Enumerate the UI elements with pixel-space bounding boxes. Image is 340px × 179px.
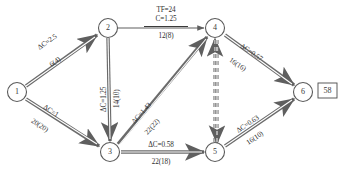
edge-2-4-total-float: TF=24 xyxy=(144,6,188,15)
node-2-label: 2 xyxy=(106,23,110,32)
edge-2-3-duration-value: 14(10) xyxy=(113,89,121,108)
edge-5-4-dashed xyxy=(215,40,217,142)
edge-2-3-label: ΔC=1.25 xyxy=(100,87,109,112)
node-6: 6 xyxy=(294,83,313,102)
edge-2-4-duration-value: 12(8) xyxy=(144,32,188,41)
edge-3-5-delta-c: ΔC=0.58 xyxy=(136,141,186,150)
edge-2-4-cost: C=1.25 xyxy=(144,15,188,24)
total-cost-box: 58 xyxy=(318,83,337,98)
edge-2-4-label-rule xyxy=(144,26,188,27)
node-1: 1 xyxy=(8,83,27,102)
node-3: 3 xyxy=(101,143,120,162)
edge-3-4 xyxy=(118,37,207,145)
node-5: 5 xyxy=(206,143,225,162)
network-diagram: 1 2 3 4 5 6 58 ΔC=2.5 6 xyxy=(0,0,340,179)
node-2: 2 xyxy=(99,19,118,38)
edge-2-3-duration: 14(10) xyxy=(113,89,122,108)
edge-2-4-label: TF=24 C=1.25 xyxy=(144,6,188,24)
edge-2-3-delta-c: ΔC=1.25 xyxy=(100,87,108,112)
node-6-label: 6 xyxy=(301,87,305,96)
node-5-label: 5 xyxy=(213,147,217,156)
total-cost-value: 58 xyxy=(324,86,332,95)
edge-3-5-duration-value: 22(18) xyxy=(136,158,186,167)
node-3-label: 3 xyxy=(108,147,112,156)
edge-2-4-duration: 12(8) xyxy=(144,32,188,41)
node-1-label: 1 xyxy=(15,87,19,96)
node-4: 4 xyxy=(206,19,225,38)
edge-3-5-duration: 22(18) xyxy=(136,158,186,167)
edge-3-5-label: ΔC=0.58 xyxy=(136,141,186,150)
node-4-label: 4 xyxy=(213,23,217,32)
